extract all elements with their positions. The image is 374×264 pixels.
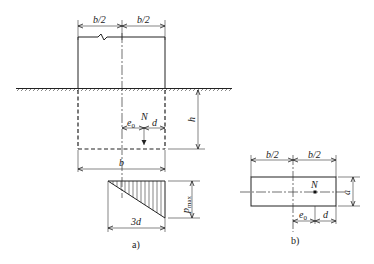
plan-label-side: a: [341, 190, 352, 195]
depth-dimension: h: [168, 90, 205, 149]
pressure-diagram: 3d pmax: [108, 181, 200, 232]
plan-label-load: N: [310, 179, 319, 190]
foundation-eccentric-load-diagram: b/2 b/2 h N: [0, 0, 374, 264]
label-width: b: [119, 157, 124, 168]
plan-label-half-width-right: b/2: [308, 149, 321, 160]
panel-b: b/2 b/2 N a e0 d b): [240, 149, 360, 247]
plan-label-offset: d: [323, 209, 329, 220]
label-load: N: [140, 111, 149, 122]
caption-b: b): [291, 235, 299, 247]
plan-side-dimension: a: [338, 177, 360, 206]
load-point-icon: [314, 191, 317, 194]
label-half-width-right: b/2: [137, 14, 150, 25]
break-line-icon: [78, 34, 165, 40]
plan-label-eccentricity: e0: [299, 209, 307, 222]
label-pressure-base: 3d: [130, 216, 142, 227]
plan-rectangle: [251, 177, 336, 206]
panel-a: b/2 b/2 h N: [16, 14, 232, 251]
load-group: N e0 d: [122, 111, 165, 145]
ground-surface: [16, 88, 232, 91]
plan-label-half-width-left: b/2: [266, 149, 279, 160]
label-offset: d: [152, 117, 158, 128]
label-depth: h: [186, 117, 197, 122]
column-above-ground: [78, 34, 165, 89]
diagram-svg: b/2 b/2 h N: [0, 0, 374, 264]
plan-eccentricity-dimension: e0 d: [293, 206, 336, 224]
plan-top-dimension: b/2 b/2: [251, 149, 336, 177]
top-dimension: b/2 b/2: [78, 14, 165, 40]
label-half-width-left: b/2: [93, 14, 106, 25]
width-dimension: b: [78, 150, 165, 172]
caption-a: a): [132, 239, 140, 251]
label-pressure-max: pmax: [180, 195, 193, 214]
